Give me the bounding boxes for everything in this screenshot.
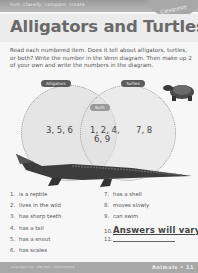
blank-line[interactable]	[113, 241, 175, 242]
page-title: Alligators and Turtles	[10, 17, 198, 36]
alligator-icon	[12, 148, 198, 188]
items-left-column: 1.is a reptile 2.lives in the wild 3.has…	[10, 191, 61, 258]
turtle-icon	[162, 79, 198, 103]
list-item: 2.lives in the wild	[10, 202, 61, 213]
footer: ©Evan-Moor Corp. • EMC 5021 • Critical T…	[0, 262, 198, 273]
answer-line-11[interactable]: 11.	[104, 236, 198, 247]
label-both: Both	[90, 104, 110, 111]
label-turtles: Turtles	[121, 80, 145, 87]
banner-text: Sort, classify, compare, create	[10, 2, 85, 7]
list-item: 1.is a reptile	[10, 191, 61, 202]
both-values-line2: 6, 9	[94, 135, 110, 144]
list-item: 4.has a tail	[10, 225, 61, 236]
instructions: Read each numbered item. Does it tell ab…	[10, 47, 194, 70]
label-alligators: Alligators	[41, 80, 71, 87]
list-item: 5.has a snout	[10, 236, 61, 247]
page-indicator: Animals • 11	[152, 264, 194, 270]
alligators-values: 3, 5, 6	[46, 126, 73, 135]
list-item: 6.has scales	[10, 247, 61, 258]
answer-line-10[interactable]: 10.Answers will vary.	[104, 225, 198, 236]
list-item: 9.can swim	[104, 213, 198, 224]
copyright: ©Evan-Moor Corp. • EMC 5021 • Critical T…	[10, 266, 75, 269]
list-item: 7.has a shell	[104, 191, 198, 202]
list-item: 3.has sharp teeth	[10, 213, 61, 224]
list-item: 8.moves slowly	[104, 202, 198, 213]
items-right-column: 7.has a shell 8.moves slowly 9.can swim …	[104, 191, 198, 247]
turtles-values: 7, 8	[136, 126, 152, 135]
